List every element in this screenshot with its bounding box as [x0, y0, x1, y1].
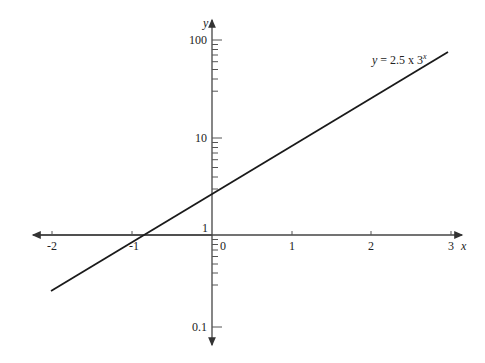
- y-axis-label: y: [202, 16, 209, 30]
- x-tick-label: -2: [47, 239, 57, 253]
- y-ticks: [212, 40, 222, 327]
- y-tick-label: 100: [189, 33, 207, 47]
- equation-label: y = 2.5 x 3x: [371, 52, 427, 67]
- x-tick-label: 1: [289, 239, 295, 253]
- x-tick-label: 3: [448, 239, 454, 253]
- x-tick-label: 0: [220, 239, 226, 253]
- y-tick-label: 10: [195, 131, 207, 145]
- exponential-curve: [51, 52, 448, 291]
- y-tick-label: 0.1: [192, 320, 207, 334]
- x-tick-label: 2: [368, 239, 374, 253]
- y-tick-label: 1: [202, 221, 208, 235]
- log-linear-plot: -2 -1 0 1 2 3 x 0.1 1 10 100: [0, 0, 485, 363]
- x-axis-label: x: [460, 239, 467, 253]
